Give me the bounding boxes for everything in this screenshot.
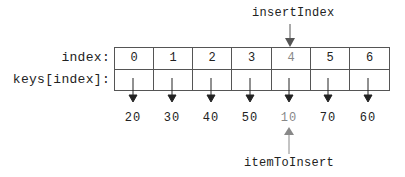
insert-index-label: insertIndex: [252, 6, 335, 20]
item-to-insert-label: itemToInsert: [244, 156, 334, 170]
value-cell: 40: [196, 111, 226, 125]
value-cell: 70: [313, 111, 343, 125]
value-cell: 50: [235, 111, 265, 125]
index-cell-highlighted: 4: [272, 48, 310, 69]
insert-index-arrow-icon: [284, 24, 296, 48]
item-to-insert-arrow-icon: [283, 126, 295, 156]
value-cell: 30: [157, 111, 187, 125]
value-cell: 60: [353, 111, 383, 125]
key-arrows-icon: [114, 69, 390, 105]
value-cell-highlighted: 10: [274, 111, 304, 125]
index-cell: 1: [154, 48, 192, 69]
index-row-label: index:: [2, 50, 110, 65]
index-cell: 5: [311, 48, 349, 69]
index-cell: 6: [350, 48, 389, 69]
value-cell: 20: [118, 111, 148, 125]
index-cell: 2: [193, 48, 231, 69]
index-cell: 3: [232, 48, 271, 69]
keys-row-label: keys[index]:: [2, 72, 110, 87]
index-cell: 0: [115, 48, 153, 69]
